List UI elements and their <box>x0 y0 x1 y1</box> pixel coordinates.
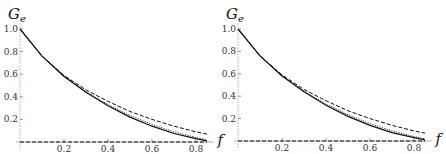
series-dashed <box>238 29 425 133</box>
chart-panel-1: 0.20.40.60.81.00.20.40.60.8Gef <box>4 5 226 154</box>
x-axis-label: f <box>435 130 444 148</box>
series-dotted <box>238 29 425 139</box>
x-tick-label: 0.4 <box>319 143 334 153</box>
x-tick-label: 0.2 <box>275 143 289 153</box>
y-tick-label: 0.8 <box>222 46 237 56</box>
x-axis-label: f <box>217 131 226 149</box>
x-tick-label: 0.2 <box>57 144 71 154</box>
y-axis-label: Ge <box>226 5 244 24</box>
y-tick-label: 0.4 <box>4 92 19 102</box>
x-tick-label: 0.4 <box>101 144 116 154</box>
x-tick-label: 0.6 <box>363 143 378 153</box>
y-tick-label: 0.2 <box>4 114 18 124</box>
chart-panel-2: 0.20.40.60.81.00.20.40.60.8Gef <box>222 5 444 153</box>
y-tick-label: 1.0 <box>222 24 237 34</box>
series-solid <box>20 29 207 141</box>
x-tick-label: 0.6 <box>145 144 160 154</box>
chart-figure: 0.20.40.60.81.00.20.40.60.8Gef0.20.40.60… <box>0 0 446 154</box>
y-tick-label: 0.4 <box>222 91 237 101</box>
x-tick-label: 0.8 <box>407 143 422 153</box>
y-tick-label: 0.8 <box>4 47 19 57</box>
series-dashed <box>20 29 207 134</box>
x-tick-label: 0.8 <box>189 144 204 154</box>
series-solid <box>238 29 425 140</box>
y-tick-label: 0.2 <box>222 114 236 124</box>
y-axis-label: Ge <box>8 5 26 24</box>
y-tick-label: 0.6 <box>4 69 19 79</box>
y-tick-label: 0.6 <box>222 69 237 79</box>
y-tick-label: 1.0 <box>4 24 19 34</box>
series-dotted <box>20 29 207 140</box>
